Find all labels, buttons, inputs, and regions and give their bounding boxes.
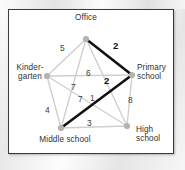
edge-weight-office-kinder: 5 — [60, 44, 65, 53]
node-label-office: Office — [62, 13, 110, 22]
edge-office-primary — [86, 39, 132, 75]
node-middle — [58, 125, 64, 131]
node-high — [124, 123, 130, 129]
node-label-high: High school — [136, 125, 176, 143]
network-graph — [0, 0, 185, 170]
edge-weight-primary-high: 8 — [128, 96, 133, 105]
node-label-middle: Middle school — [29, 135, 101, 144]
edge-weight-office-high: 1 — [90, 94, 95, 103]
edge-weight-kinder-high: 7 — [78, 95, 83, 104]
node-primary — [129, 72, 135, 78]
node-label-kinder: Kinder- garten — [9, 63, 51, 81]
edge-weight-office-primary: 2 — [113, 41, 118, 50]
edge-middle-high — [61, 126, 127, 128]
node-label-primary: Primary school — [137, 63, 181, 81]
edge-weight-kinder-primary: 6 — [86, 69, 91, 78]
node-office — [83, 36, 89, 42]
edge-weight-middle-high: 3 — [87, 119, 92, 128]
edge-weight-kinder-middle: 4 — [45, 106, 50, 115]
edge-weight-office-middle: 7 — [71, 83, 76, 92]
edge-weight-primary-middle: 2 — [104, 76, 109, 85]
diagram-page: OfficeKinder- gartenPrimary schoolMiddle… — [0, 0, 185, 170]
